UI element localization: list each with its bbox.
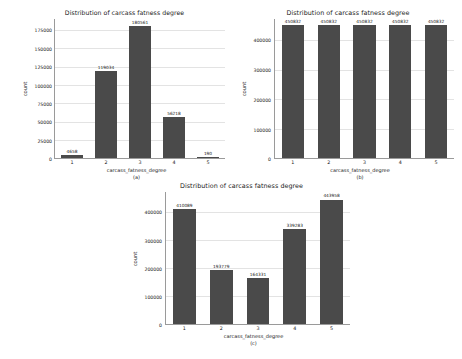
bar[interactable] bbox=[425, 25, 447, 158]
y-tick-label: 175000 bbox=[34, 28, 52, 33]
y-tick-label: 0 bbox=[49, 157, 52, 162]
bar-slot: 450832 bbox=[382, 19, 418, 158]
bar-value-label: 56218 bbox=[167, 112, 181, 116]
x-axis-title-b: carcass_fatness_degree bbox=[240, 168, 456, 174]
bar-value-label: 180561 bbox=[132, 21, 148, 25]
chart-title-a: Distribution of carcass fatness degree bbox=[22, 10, 227, 16]
bar[interactable] bbox=[389, 25, 411, 158]
x-axis-title-c: carcass_fatness_degree bbox=[131, 334, 352, 340]
plot-area-b: count 0100000200000300000400000 45083245… bbox=[240, 19, 456, 159]
bar-slot: 119034 bbox=[89, 19, 123, 158]
bar-slot: 450832 bbox=[418, 19, 454, 158]
bar-slot: 450832 bbox=[275, 19, 311, 158]
bar-slot: 450832 bbox=[311, 19, 347, 158]
x-axis-ticks-a: 12345 bbox=[55, 158, 225, 167]
subcaption-b: (b) bbox=[240, 175, 456, 181]
bar-value-label: 4658 bbox=[67, 150, 78, 154]
y-tick-label: 100000 bbox=[253, 127, 271, 132]
y-tick-label: 75000 bbox=[37, 101, 52, 106]
bar-value-label: 190 bbox=[204, 152, 212, 156]
bar[interactable] bbox=[173, 209, 196, 324]
y-tick-label: 100000 bbox=[144, 295, 162, 300]
bar[interactable] bbox=[210, 270, 233, 324]
axes-a: 465811903418056156218190 12345 bbox=[54, 19, 225, 159]
x-tick-label: 2 bbox=[89, 158, 123, 167]
x-tick-label: 1 bbox=[55, 158, 89, 167]
y-axis-ticks-b: 0100000200000300000400000 bbox=[247, 19, 273, 159]
x-tick-label: 4 bbox=[276, 324, 313, 333]
x-axis-ticks-b: 12345 bbox=[275, 158, 454, 167]
bar-value-label: 450832 bbox=[392, 20, 408, 24]
bar-slot: 339283 bbox=[276, 192, 313, 324]
bar[interactable] bbox=[282, 25, 304, 158]
x-axis-ticks-c: 12345 bbox=[166, 324, 350, 333]
y-tick-label: 100000 bbox=[34, 83, 52, 88]
x-tick-label: 5 bbox=[191, 158, 225, 167]
subcaption-c: (c) bbox=[131, 341, 352, 347]
bar-slot: 443958 bbox=[313, 192, 350, 324]
axes-c: 410089193779164331339283443958 12345 bbox=[165, 192, 350, 325]
bar-value-label: 450832 bbox=[428, 20, 444, 24]
chart-title-c: Distribution of carcass fatness degree bbox=[131, 183, 352, 189]
y-tick-label: 125000 bbox=[34, 65, 52, 70]
bar[interactable] bbox=[353, 25, 375, 158]
x-tick-label: 5 bbox=[418, 158, 454, 167]
x-tick-label: 2 bbox=[203, 324, 240, 333]
y-tick-label: 400000 bbox=[144, 210, 162, 215]
x-tick-label: 1 bbox=[275, 158, 311, 167]
x-tick-label: 3 bbox=[240, 324, 277, 333]
subcaption-a: (a) bbox=[22, 175, 227, 181]
y-tick-label: 50000 bbox=[37, 120, 52, 125]
bar[interactable] bbox=[129, 26, 150, 158]
chart-title-b: Distribution of carcass fatness degree bbox=[240, 10, 456, 16]
x-tick-label: 3 bbox=[347, 158, 383, 167]
x-tick-label: 1 bbox=[166, 324, 203, 333]
x-tick-label: 2 bbox=[311, 158, 347, 167]
bar-value-label: 450832 bbox=[285, 20, 301, 24]
axes-b: 450832450832450832450832450832 12345 bbox=[274, 19, 454, 159]
chart-figure-b: Distribution of carcass fatness degree c… bbox=[240, 10, 456, 192]
bar[interactable] bbox=[163, 117, 184, 158]
bar-slot: 450832 bbox=[347, 19, 383, 158]
y-tick-label: 150000 bbox=[34, 46, 52, 51]
y-tick-label: 400000 bbox=[253, 38, 271, 43]
chart-figure-c: Distribution of carcass fatness degree c… bbox=[131, 183, 352, 359]
bar-slot: 190 bbox=[191, 19, 225, 158]
bar[interactable] bbox=[283, 229, 306, 324]
bar-group-a: 465811903418056156218190 bbox=[55, 19, 225, 158]
x-tick-label: 4 bbox=[382, 158, 418, 167]
bar[interactable] bbox=[95, 71, 116, 158]
bar-slot: 56218 bbox=[157, 19, 191, 158]
y-tick-label: 300000 bbox=[144, 238, 162, 243]
y-axis-ticks-a: 0250005000075000100000125000150000175000 bbox=[28, 19, 54, 159]
bar[interactable] bbox=[320, 200, 343, 325]
y-tick-label: 200000 bbox=[253, 97, 271, 102]
bar-value-label: 193779 bbox=[213, 265, 229, 269]
x-tick-label: 5 bbox=[313, 324, 350, 333]
plot-area-a: count 0250005000075000100000125000150000… bbox=[22, 19, 227, 159]
bar-slot: 410089 bbox=[166, 192, 203, 324]
bar-group-c: 410089193779164331339283443958 bbox=[166, 192, 350, 324]
bar-value-label: 339283 bbox=[287, 224, 303, 228]
bar-slot: 4658 bbox=[55, 19, 89, 158]
y-tick-label: 0 bbox=[159, 323, 162, 328]
bar-slot: 164331 bbox=[240, 192, 277, 324]
x-tick-label: 3 bbox=[123, 158, 157, 167]
bar-value-label: 119034 bbox=[98, 66, 114, 70]
bar[interactable] bbox=[318, 25, 340, 158]
x-tick-label: 4 bbox=[157, 158, 191, 167]
plot-area-c: count 0100000200000300000400000 41008919… bbox=[131, 192, 352, 325]
bar-value-label: 164331 bbox=[250, 273, 266, 277]
bar-group-b: 450832450832450832450832450832 bbox=[275, 19, 454, 158]
y-axis-ticks-c: 0100000200000300000400000 bbox=[138, 192, 164, 325]
bar-slot: 193779 bbox=[203, 192, 240, 324]
bar-slot: 180561 bbox=[123, 19, 157, 158]
y-tick-label: 300000 bbox=[253, 68, 271, 73]
y-tick-label: 25000 bbox=[37, 138, 52, 143]
bar-value-label: 410089 bbox=[176, 204, 192, 208]
y-tick-label: 200000 bbox=[144, 266, 162, 271]
y-tick-label: 0 bbox=[268, 157, 271, 162]
x-axis-title-a: carcass_fatness_degree bbox=[22, 168, 227, 174]
bar[interactable] bbox=[247, 278, 270, 324]
bar-value-label: 443958 bbox=[323, 194, 339, 198]
